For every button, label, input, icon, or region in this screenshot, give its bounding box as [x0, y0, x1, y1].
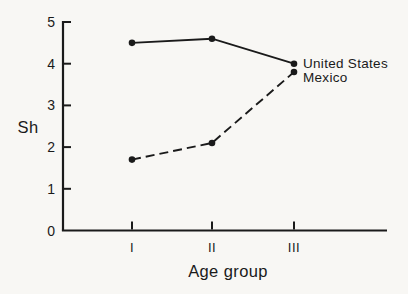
y-tick-label: 5	[47, 14, 55, 30]
data-point-mexico	[129, 156, 136, 163]
legend-label-united-states: United States	[303, 56, 388, 71]
data-point-united-states	[291, 60, 298, 67]
data-point-united-states	[129, 40, 136, 47]
x-tick-label: III	[288, 240, 300, 255]
data-point-mexico	[291, 69, 298, 76]
y-tick-label: 4	[47, 56, 55, 72]
y-tick-label: 1	[47, 181, 55, 197]
y-axis-label: Sh	[18, 118, 39, 137]
plot-area: 012345IIIIIIUnited StatesMexico	[0, 0, 408, 294]
legend-label-mexico: Mexico	[303, 70, 348, 85]
data-point-united-states	[209, 35, 216, 42]
x-tick-label: I	[130, 240, 134, 255]
y-tick-label: 2	[47, 139, 55, 155]
y-tick-label: 3	[47, 97, 55, 113]
x-tick-label: II	[208, 240, 216, 255]
x-axis-label: Age group	[188, 262, 268, 281]
y-tick-label: 0	[47, 223, 55, 239]
series-line-united-states	[132, 39, 294, 64]
data-point-mexico	[209, 140, 216, 147]
series-line-mexico	[132, 72, 294, 160]
chart-figure: 012345IIIIIIUnited StatesMexico Sh Age g…	[0, 0, 408, 294]
